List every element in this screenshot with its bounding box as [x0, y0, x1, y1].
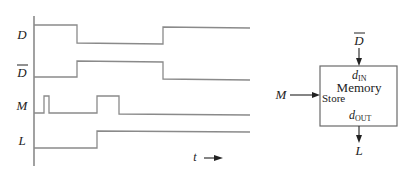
time-indicator: t: [193, 150, 223, 164]
svg-text:D: D: [16, 65, 27, 80]
memory-block: D dIN Memory Store M dOUT L: [275, 33, 397, 158]
store-label: Store: [322, 92, 345, 104]
memory-output-signal-label: L: [354, 143, 362, 158]
memory-store-signal-label: M: [275, 87, 288, 102]
waveform-m: [34, 96, 250, 115]
time-arrow-icon: [214, 155, 223, 161]
signal-label-d-bar: D: [16, 65, 28, 80]
waveform-d-bar: [34, 61, 250, 80]
right-arrow-icon: [312, 92, 320, 98]
signal-label-d: D: [16, 27, 27, 42]
signal-label-m: M: [16, 98, 29, 113]
down-arrow-icon: [356, 135, 362, 143]
diagram-canvas: D D M L t D dIN Memory Store M dOUT: [0, 0, 419, 178]
waveform-l: [34, 131, 250, 148]
memory-input-signal-label: D: [353, 33, 364, 48]
time-label: t: [193, 150, 197, 164]
waveform-d: [34, 25, 250, 44]
down-arrow-icon: [356, 58, 362, 66]
signal-label-l: L: [17, 133, 25, 148]
